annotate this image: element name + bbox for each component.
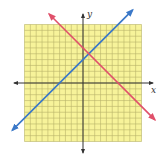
y-axis-label: y — [86, 9, 93, 19]
x-axis-label: x — [151, 85, 156, 95]
coordinate-plane-chart: y x — [0, 0, 164, 162]
